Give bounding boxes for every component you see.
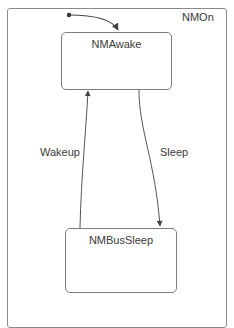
wakeup-label: Wakeup	[40, 146, 80, 158]
state-nmbussleep[interactable]: NMBusSleep	[65, 228, 177, 293]
initial-transition-arrow	[69, 15, 118, 30]
state-nmawake[interactable]: NMAwake	[61, 32, 172, 90]
sleep-label: Sleep	[160, 146, 188, 158]
wakeup-transition-arrow	[80, 91, 88, 228]
state-nmawake-label: NMAwake	[62, 38, 171, 50]
state-nmbussleep-label: NMBusSleep	[66, 234, 176, 246]
sleep-transition-arrow	[139, 90, 160, 226]
